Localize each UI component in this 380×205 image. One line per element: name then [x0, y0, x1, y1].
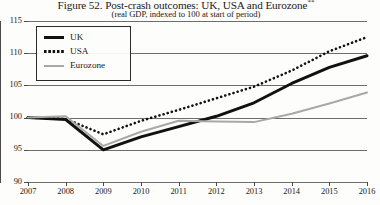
x-axis-tick-label-2011: 2011 [162, 187, 196, 196]
x-axis-tick-label-2007: 2007 [11, 187, 45, 196]
x-tick-2008 [66, 182, 67, 186]
gridline-y-90 [28, 182, 367, 183]
legend-swatch-usa-icon [44, 46, 64, 56]
y-axis-tick-label-90: 90 [0, 178, 22, 186]
legend-item-uk: UK [44, 30, 83, 44]
y-axis-tick-label-100: 100 [0, 113, 22, 121]
y-axis-tick-label-110: 110 [0, 49, 22, 57]
chart-legend: UK USA Eurozone [36, 26, 131, 81]
x-axis-tick-label-2012: 2012 [199, 187, 233, 196]
y-axis-tick-label-105: 105 [0, 81, 22, 89]
y-axis-line [0, 21, 1, 183]
y-axis-tick-label-115: 115 [0, 17, 22, 25]
legend-swatch-eurozone-icon [44, 60, 64, 70]
legend-item-usa: USA [44, 44, 88, 58]
y-axis-tick-label-95: 95 [0, 145, 22, 153]
x-axis-tick-label-2008: 2008 [49, 187, 83, 196]
legend-swatch-uk-icon [44, 32, 64, 42]
legend-label-usa: USA [70, 46, 88, 56]
x-tick-2013 [254, 182, 255, 186]
chart-title-footnote-marker: ** [307, 0, 314, 6]
x-axis-tick-label-2013: 2013 [237, 187, 271, 196]
x-tick-2007 [28, 182, 29, 186]
series-line-eurozone [28, 92, 367, 145]
legend-label-eurozone: Eurozone [70, 60, 105, 70]
x-axis-tick-label-2015: 2015 [312, 187, 346, 196]
x-axis-tick-label-2010: 2010 [124, 187, 158, 196]
legend-item-eurozone: Eurozone [44, 58, 105, 72]
x-tick-2009 [103, 182, 104, 186]
x-tick-2015 [329, 182, 330, 186]
x-axis-tick-label-2016: 2016 [350, 187, 380, 196]
x-tick-2010 [141, 182, 142, 186]
x-tick-2016 [367, 182, 368, 186]
chart-subtitle: (real GDP, indexed to 100 at start of pe… [0, 9, 372, 19]
legend-label-uk: UK [70, 32, 83, 42]
x-tick-2014 [292, 182, 293, 186]
x-axis-tick-label-2014: 2014 [275, 187, 309, 196]
x-tick-2011 [179, 182, 180, 186]
x-axis-tick-label-2009: 2009 [86, 187, 120, 196]
x-tick-2012 [216, 182, 217, 186]
